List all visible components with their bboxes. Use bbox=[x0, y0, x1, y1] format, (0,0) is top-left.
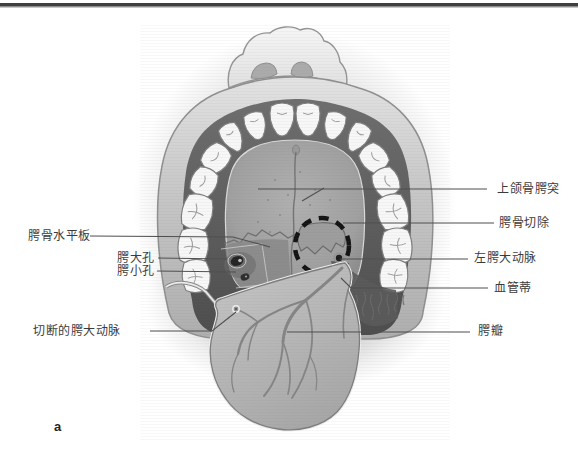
label-greater-palatine-foramen: 腭大孔 bbox=[117, 251, 155, 265]
label-lesser-palatine-foramen: 腭小孔 bbox=[117, 264, 155, 278]
label-vascular-pedicle: 血管蒂 bbox=[494, 281, 532, 295]
left-greater-palatine-artery-dot bbox=[336, 255, 342, 261]
label-palatal-flap: 腭瓣 bbox=[478, 324, 503, 338]
greater-palatine-foramen bbox=[228, 254, 246, 268]
palate-flap-illustration bbox=[0, 0, 578, 456]
label-palatine-process-of-maxilla: 上颌骨腭突 bbox=[497, 182, 560, 196]
label-palatine-bone-resection: 腭骨切除 bbox=[499, 216, 549, 230]
cut-artery-stump bbox=[233, 306, 239, 312]
figure-panel-marker: a bbox=[54, 419, 61, 434]
label-horizontal-plate-of-palatine-bone: 腭骨水平板 bbox=[28, 229, 91, 243]
label-cut-greater-palatine-artery: 切断的腭大动脉 bbox=[33, 324, 121, 338]
figure-page: 腭骨水平板 腭大孔 腭小孔 切断的腭大动脉 上颌骨腭突 腭骨切除 左腭大动脉 血… bbox=[0, 0, 578, 456]
label-left-greater-palatine-artery: 左腭大动脉 bbox=[474, 251, 537, 265]
